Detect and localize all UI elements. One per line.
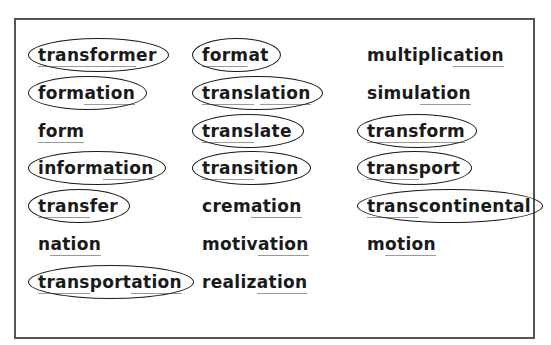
- word-translate: translate: [202, 120, 292, 142]
- morpheme-underline: ation: [453, 45, 504, 67]
- word-segment: port: [90, 272, 132, 292]
- word-segment: inform: [38, 158, 103, 178]
- morpheme-underline: trans: [367, 158, 419, 180]
- word-segment: fer: [90, 196, 118, 216]
- morpheme-underline: trans: [202, 121, 254, 143]
- word-segment: port: [419, 158, 461, 178]
- word-motivation: motivation: [202, 233, 309, 255]
- word-multiplication: multiplication: [367, 44, 504, 66]
- word-segment: at: [248, 45, 268, 65]
- word-transformer: transformer: [38, 44, 157, 66]
- word-translation: translation: [202, 82, 311, 104]
- word-transfer: transfer: [38, 195, 118, 217]
- word-segment: simul: [367, 83, 420, 103]
- word-formation: formation: [38, 82, 135, 104]
- word-segment: l: [254, 83, 260, 103]
- word-simulation: simulation: [367, 82, 471, 104]
- morpheme-underline: transform: [38, 45, 136, 67]
- word-segment: motiv: [202, 234, 258, 254]
- morpheme-underline: ation: [257, 272, 308, 294]
- word-segment: form: [38, 83, 84, 103]
- word-segment: er: [136, 45, 157, 65]
- word-segment: m: [367, 234, 385, 254]
- word-cremation: cremation: [202, 195, 302, 217]
- morpheme-underline: ation: [260, 83, 311, 105]
- word-segment: late: [254, 121, 292, 141]
- word-segment: n: [38, 234, 50, 254]
- word-segment: ition: [254, 158, 299, 178]
- word-motion: motion: [367, 233, 436, 255]
- word-nation: nation: [38, 233, 101, 255]
- word-format: format: [202, 44, 269, 66]
- word-transcontinental: transcontinental: [367, 195, 531, 217]
- morpheme-underline: form: [38, 121, 84, 143]
- morpheme-underline: trans: [38, 272, 90, 294]
- morpheme-underline: trans: [202, 158, 254, 180]
- word-information: information: [38, 157, 154, 179]
- word-segment: realiz: [202, 272, 257, 292]
- word-transition: transition: [202, 157, 299, 179]
- word-segment: continental: [419, 196, 531, 216]
- morpheme-underline: ation: [420, 83, 471, 105]
- morpheme-underline: ation: [251, 196, 302, 218]
- word-transport: transport: [367, 157, 460, 179]
- morpheme-underline: ation: [258, 234, 309, 256]
- morpheme-underline: ation: [84, 83, 135, 105]
- word-form: form: [38, 120, 84, 142]
- morpheme-underline: ation: [131, 272, 182, 294]
- word-transform: transform: [367, 120, 465, 142]
- word-segment: crem: [202, 196, 251, 216]
- word-realization: realization: [202, 271, 307, 293]
- morpheme-underline: trans: [202, 83, 254, 105]
- morpheme-underline: transform: [367, 121, 465, 143]
- morpheme-underline: trans: [367, 196, 419, 218]
- morpheme-underline: ation: [50, 234, 101, 256]
- word-segment: multiplic: [367, 45, 453, 65]
- morpheme-underline: trans: [38, 196, 90, 218]
- morpheme-underline: form: [202, 45, 248, 67]
- word-transportation: transportation: [38, 271, 182, 293]
- morpheme-underline: ation: [103, 158, 154, 180]
- morpheme-underline: otion: [385, 234, 436, 256]
